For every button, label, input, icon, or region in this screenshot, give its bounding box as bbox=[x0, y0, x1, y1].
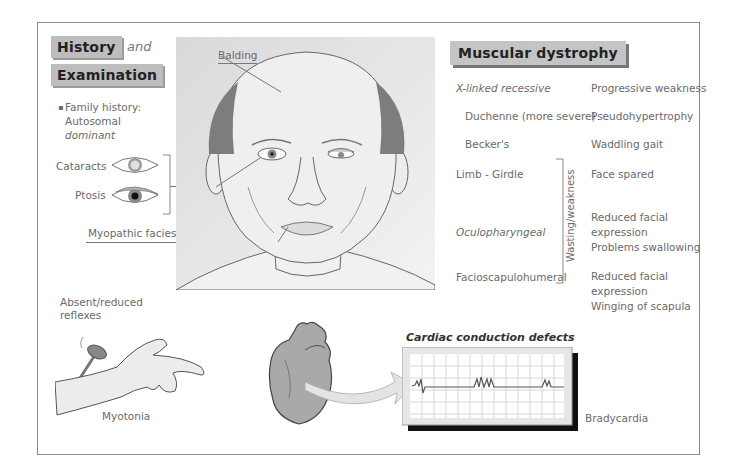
feature-pseudohypertrophy: Pseudohypertrophy bbox=[591, 109, 693, 123]
type-limb-girdle: Limb - Girdle bbox=[456, 167, 523, 181]
ptosis-eye-icon bbox=[112, 187, 158, 203]
wasting-bracket bbox=[552, 158, 566, 286]
bullet-icon: ▪ bbox=[58, 101, 63, 115]
family-history-line1: Family history: bbox=[65, 100, 141, 114]
face-illustration-panel: Balding bbox=[176, 37, 435, 290]
myopathic-facies-label: Myopathic facies bbox=[88, 226, 176, 240]
feature-line: Winging of scapula bbox=[591, 299, 691, 313]
feature-line: expression bbox=[591, 225, 648, 239]
type-facioscapulohumeral: Facioscapulohumeral bbox=[456, 270, 567, 284]
muscular-dystrophy-heading: Muscular dystrophy bbox=[450, 41, 626, 65]
ecg-monitor bbox=[402, 347, 582, 433]
type-oculopharyngeal: Oculopharyngeal bbox=[456, 225, 545, 239]
hand-icon bbox=[55, 339, 204, 415]
heart-icon bbox=[269, 322, 331, 424]
feature-face-spared: Face spared bbox=[591, 167, 654, 181]
feature-line: Reduced facial bbox=[591, 210, 668, 224]
bradycardia-label: Bradycardia bbox=[585, 411, 648, 425]
family-history-line3: dominant bbox=[65, 128, 115, 142]
family-history-line2: Autosomal bbox=[65, 114, 121, 128]
feature-line: Problems swallowing bbox=[591, 240, 700, 254]
eye-bracket bbox=[163, 155, 170, 214]
eye-icons bbox=[108, 152, 178, 218]
feature-line: expression bbox=[591, 284, 648, 298]
feature-progressive-weakness: Progressive weakness bbox=[591, 81, 706, 95]
examination-heading: Examination bbox=[51, 64, 163, 86]
wasting-weakness-label: Wasting/weakness bbox=[565, 170, 576, 263]
type-duchenne: Duchenne (more severe) bbox=[465, 109, 596, 123]
and-connector: and bbox=[127, 40, 151, 54]
history-heading: History bbox=[51, 36, 122, 58]
feature-waddling-gait: Waddling gait bbox=[591, 137, 663, 151]
type-becker: Becker's bbox=[465, 137, 509, 151]
cataract-eye-icon bbox=[112, 158, 158, 173]
feature-line: Reduced facial bbox=[591, 269, 668, 283]
myotonia-label: Myotonia bbox=[102, 409, 150, 423]
reflexes-line1: Absent/reduced bbox=[60, 295, 143, 309]
face-illustration bbox=[176, 37, 435, 290]
cataracts-label: Cataracts bbox=[56, 159, 106, 173]
heart-arrow-illustration bbox=[265, 320, 415, 430]
ecg-title: Cardiac conduction defects bbox=[406, 331, 575, 344]
type-x-linked: X-linked recessive bbox=[456, 81, 551, 95]
ptosis-label: Ptosis bbox=[75, 188, 106, 202]
balding-label: Balding bbox=[218, 48, 257, 64]
